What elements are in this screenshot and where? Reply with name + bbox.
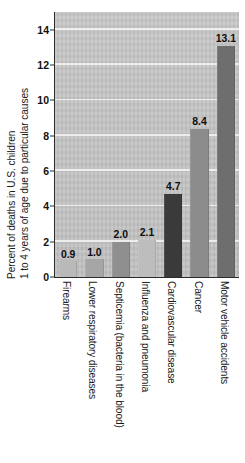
bar bbox=[112, 242, 130, 277]
bar-value-label: 4.7 bbox=[166, 181, 180, 192]
gridline bbox=[55, 99, 239, 101]
gridline bbox=[55, 169, 239, 171]
x-axis-category-label: Lower respiratory diseases bbox=[87, 281, 98, 399]
bar bbox=[217, 46, 235, 277]
y-axis-tick-label: 2 bbox=[43, 236, 49, 248]
y-axis-tick-label: 14 bbox=[37, 24, 49, 36]
bar-value-label: 1.0 bbox=[87, 247, 101, 258]
gridline bbox=[55, 134, 239, 136]
bar bbox=[138, 240, 156, 277]
x-axis-category-label: Firearms bbox=[61, 281, 72, 320]
bar bbox=[59, 261, 77, 277]
bar-value-label: 2.1 bbox=[140, 227, 154, 238]
y-axis-tick-label: 10 bbox=[37, 94, 49, 106]
bar-value-label: 2.0 bbox=[113, 229, 127, 240]
x-axis-line bbox=[54, 277, 239, 278]
x-axis-category-label: Septicemia (bacteria in the blood) bbox=[114, 281, 125, 428]
gridline bbox=[55, 28, 239, 30]
x-axis-category-label: Cancer bbox=[193, 281, 204, 313]
bar-value-label: 8.4 bbox=[192, 116, 206, 127]
y-axis-tick-label: 0 bbox=[43, 271, 49, 283]
y-axis-tick-label: 4 bbox=[43, 200, 49, 212]
y-axis-title-line1: Percent of deaths in U.S. children bbox=[6, 131, 17, 279]
bar-value-label: 13.1 bbox=[216, 33, 236, 44]
y-axis-tick-label: 12 bbox=[37, 59, 49, 71]
bar bbox=[85, 259, 103, 277]
y-axis-ticks: 02468101214 bbox=[30, 0, 55, 290]
x-axis-category-label: Motor vehicle accidents bbox=[219, 281, 230, 384]
bar bbox=[190, 129, 208, 277]
y-axis-tick-label: 6 bbox=[43, 165, 49, 177]
bar-value-label: 0.9 bbox=[61, 249, 75, 260]
plot-area: 0.91.02.02.14.78.413.1 bbox=[55, 12, 239, 277]
y-axis-tick-label: 8 bbox=[43, 130, 49, 142]
y-axis-title-line2: 1 to 4 years of age due to particular ca… bbox=[19, 88, 30, 279]
x-axis-category-labels: FirearmsLower respiratory diseasesSeptic… bbox=[55, 281, 239, 463]
gridline bbox=[55, 63, 239, 65]
x-axis-category-label: Cardiovascular disease bbox=[166, 281, 177, 384]
gridline bbox=[55, 205, 239, 207]
x-axis-category-label: Influenza and pneumonia bbox=[140, 281, 151, 392]
bar bbox=[164, 194, 182, 277]
